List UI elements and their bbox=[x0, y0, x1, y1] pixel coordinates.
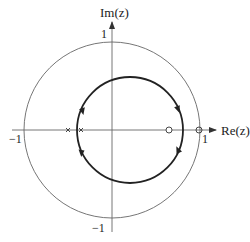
y-tick-top: 1 bbox=[101, 27, 107, 41]
zero-marker bbox=[166, 127, 172, 133]
x-tick-left: −1 bbox=[9, 132, 22, 146]
root-locus-plot: Im(z) Re(z) 1 −1 −1 1 bbox=[0, 0, 250, 242]
y-axis-label: Im(z) bbox=[100, 5, 129, 20]
locus-arrow-upper-right bbox=[174, 105, 182, 114]
y-tick-bottom: −1 bbox=[92, 221, 105, 235]
x-tick-right: 1 bbox=[202, 132, 208, 146]
x-axis-label: Re(z) bbox=[221, 123, 250, 138]
